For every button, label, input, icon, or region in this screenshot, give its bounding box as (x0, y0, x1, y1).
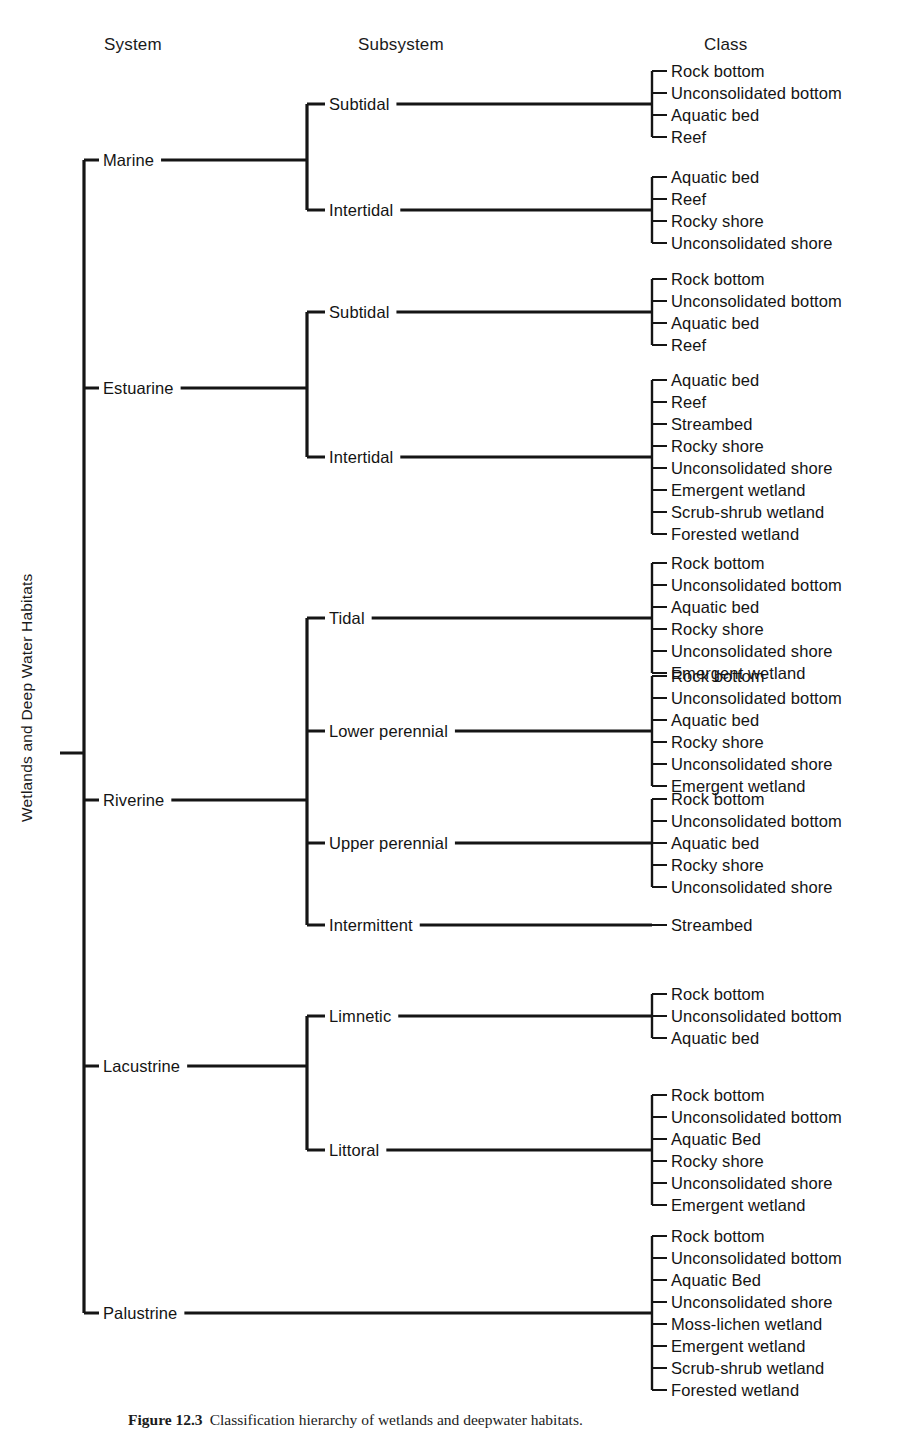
class-label-riverine-upper-perennial-rocky-shore: Rocky shore (671, 856, 764, 875)
class-label-marine-intertidal-aquatic-bed: Aquatic bed (671, 168, 759, 187)
class-label-riverine-lower-perennial-rock-bottom: Rock bottom (671, 667, 765, 686)
class-label-riverine-upper-perennial-rock-bottom: Rock bottom (671, 790, 765, 809)
class-label-lacustrine-limnetic-rock-bottom: Rock bottom (671, 985, 765, 1004)
class-label-riverine-tidal-unconsolidated-bottom: Unconsolidated bottom (671, 576, 842, 595)
subsystem-label-riverine-intermittent: Intermittent (329, 916, 413, 935)
subsystem-label-riverine-tidal: Tidal (329, 609, 365, 628)
class-label-marine-subtidal-rock-bottom: Rock bottom (671, 62, 765, 81)
class-label-lacustrine-littoral-emergent-wetland: Emergent wetland (671, 1196, 806, 1215)
system-label-palustrine: Palustrine (103, 1304, 177, 1323)
class-label-marine-intertidal-unconsolidated-shore: Unconsolidated shore (671, 234, 833, 253)
tree-connector-lines (0, 0, 916, 1429)
class-label-lacustrine-littoral-rock-bottom: Rock bottom (671, 1086, 765, 1105)
subsystem-label-marine-subtidal: Subtidal (329, 95, 389, 114)
subsystem-label-lacustrine-littoral: Littoral (329, 1141, 379, 1160)
classification-diagram: System Subsystem Class Wetlands and Deep… (0, 0, 916, 1429)
subsystem-label-riverine-upper-perennial: Upper perennial (329, 834, 448, 853)
class-label-marine-intertidal-rocky-shore: Rocky shore (671, 212, 764, 231)
figure-caption: Figure 12.3Classification hierarchy of w… (128, 1411, 828, 1429)
class-label-lacustrine-limnetic-unconsolidated-bottom: Unconsolidated bottom (671, 1007, 842, 1026)
class-label-estuarine-intertidal-scrub-shrub-wetland: Scrub-shrub wetland (671, 503, 824, 522)
class-label-estuarine-intertidal-aquatic-bed: Aquatic bed (671, 371, 759, 390)
class-label-estuarine-intertidal-streambed: Streambed (671, 415, 753, 434)
class-label-riverine-tidal-rocky-shore: Rocky shore (671, 620, 764, 639)
class-label-palustrine-direct-unconsolidated-bottom: Unconsolidated bottom (671, 1249, 842, 1268)
class-label-riverine-tidal-aquatic-bed: Aquatic bed (671, 598, 759, 617)
class-label-riverine-upper-perennial-aquatic-bed: Aquatic bed (671, 834, 759, 853)
class-label-riverine-intermittent-streambed: Streambed (671, 916, 753, 935)
class-label-riverine-upper-perennial-unconsolidated-bottom: Unconsolidated bottom (671, 812, 842, 831)
class-label-lacustrine-littoral-rocky-shore: Rocky shore (671, 1152, 764, 1171)
figure-caption-text: Classification hierarchy of wetlands and… (210, 1411, 583, 1428)
class-label-riverine-tidal-rock-bottom: Rock bottom (671, 554, 765, 573)
system-label-riverine: Riverine (103, 791, 164, 810)
class-label-lacustrine-littoral-unconsolidated-shore: Unconsolidated shore (671, 1174, 833, 1193)
subsystem-label-marine-intertidal: Intertidal (329, 201, 393, 220)
class-label-estuarine-subtidal-rock-bottom: Rock bottom (671, 270, 765, 289)
class-label-riverine-lower-perennial-unconsolidated-shore: Unconsolidated shore (671, 755, 833, 774)
subsystem-label-estuarine-subtidal: Subtidal (329, 303, 389, 322)
class-label-lacustrine-littoral-aquatic-bed: Aquatic Bed (671, 1130, 761, 1149)
class-label-palustrine-direct-aquatic-bed: Aquatic Bed (671, 1271, 761, 1290)
class-label-marine-intertidal-reef: Reef (671, 190, 706, 209)
subsystem-label-riverine-lower-perennial: Lower perennial (329, 722, 448, 741)
class-label-estuarine-subtidal-unconsolidated-bottom: Unconsolidated bottom (671, 292, 842, 311)
class-label-estuarine-intertidal-forested-wetland: Forested wetland (671, 525, 799, 544)
class-label-riverine-upper-perennial-unconsolidated-shore: Unconsolidated shore (671, 878, 833, 897)
system-label-marine: Marine (103, 151, 154, 170)
system-label-estuarine: Estuarine (103, 379, 174, 398)
class-label-riverine-lower-perennial-rocky-shore: Rocky shore (671, 733, 764, 752)
subsystem-label-estuarine-intertidal: Intertidal (329, 448, 393, 467)
class-label-palustrine-direct-unconsolidated-shore: Unconsolidated shore (671, 1293, 833, 1312)
figure-number: Figure 12.3 (128, 1411, 203, 1428)
class-label-palustrine-direct-scrub-shrub-wetland: Scrub-shrub wetland (671, 1359, 824, 1378)
class-label-estuarine-intertidal-emergent-wetland: Emergent wetland (671, 481, 806, 500)
class-label-lacustrine-limnetic-aquatic-bed: Aquatic bed (671, 1029, 759, 1048)
class-label-palustrine-direct-moss-lichen-wetland: Moss-lichen wetland (671, 1315, 822, 1334)
class-label-riverine-lower-perennial-aquatic-bed: Aquatic bed (671, 711, 759, 730)
class-label-estuarine-intertidal-reef: Reef (671, 393, 706, 412)
class-label-estuarine-subtidal-aquatic-bed: Aquatic bed (671, 314, 759, 333)
class-label-marine-subtidal-reef: Reef (671, 128, 706, 147)
class-label-marine-subtidal-unconsolidated-bottom: Unconsolidated bottom (671, 84, 842, 103)
class-label-riverine-lower-perennial-unconsolidated-bottom: Unconsolidated bottom (671, 689, 842, 708)
class-label-estuarine-intertidal-rocky-shore: Rocky shore (671, 437, 764, 456)
class-label-riverine-tidal-unconsolidated-shore: Unconsolidated shore (671, 642, 833, 661)
class-label-palustrine-direct-forested-wetland: Forested wetland (671, 1381, 799, 1400)
class-label-lacustrine-littoral-unconsolidated-bottom: Unconsolidated bottom (671, 1108, 842, 1127)
subsystem-label-lacustrine-limnetic: Limnetic (329, 1007, 391, 1026)
class-label-palustrine-direct-emergent-wetland: Emergent wetland (671, 1337, 806, 1356)
class-label-palustrine-direct-rock-bottom: Rock bottom (671, 1227, 765, 1246)
system-label-lacustrine: Lacustrine (103, 1057, 180, 1076)
class-label-estuarine-intertidal-unconsolidated-shore: Unconsolidated shore (671, 459, 833, 478)
class-label-marine-subtidal-aquatic-bed: Aquatic bed (671, 106, 759, 125)
class-label-estuarine-subtidal-reef: Reef (671, 336, 706, 355)
